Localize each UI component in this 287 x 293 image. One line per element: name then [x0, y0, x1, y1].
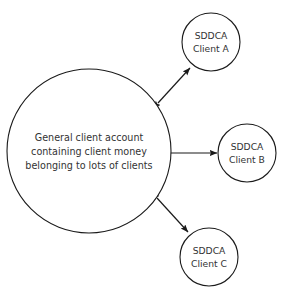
sddca-client-b-label-line2: Client B — [229, 154, 265, 165]
sddca-client-a-label-line1: SDDCA — [195, 30, 228, 41]
node-general-client-account: General client account containing client… — [7, 69, 171, 233]
general-client-account-label-line3: belonging to lots of clients — [25, 160, 152, 171]
connector-to-client-a — [158, 68, 190, 103]
node-sddca-client-a: SDDCA Client A — [182, 13, 240, 71]
sddca-client-c-label-line2: Client C — [191, 258, 227, 269]
connector-to-client-c — [157, 198, 188, 232]
node-sddca-client-c: SDDCA Client C — [180, 228, 238, 286]
diagram-canvas: General client account containing client… — [0, 0, 287, 293]
sddca-client-b-label-line1: SDDCA — [231, 141, 264, 152]
client-account-relationship-diagram: General client account containing client… — [0, 0, 287, 293]
sddca-client-c-label-line1: SDDCA — [193, 245, 226, 256]
sddca-client-a-label-line2: Client A — [193, 43, 230, 54]
general-client-account-label-line2: containing client money — [31, 146, 147, 157]
node-sddca-client-b: SDDCA Client B — [218, 124, 276, 182]
general-client-account-label-line1: General client account — [35, 132, 144, 143]
